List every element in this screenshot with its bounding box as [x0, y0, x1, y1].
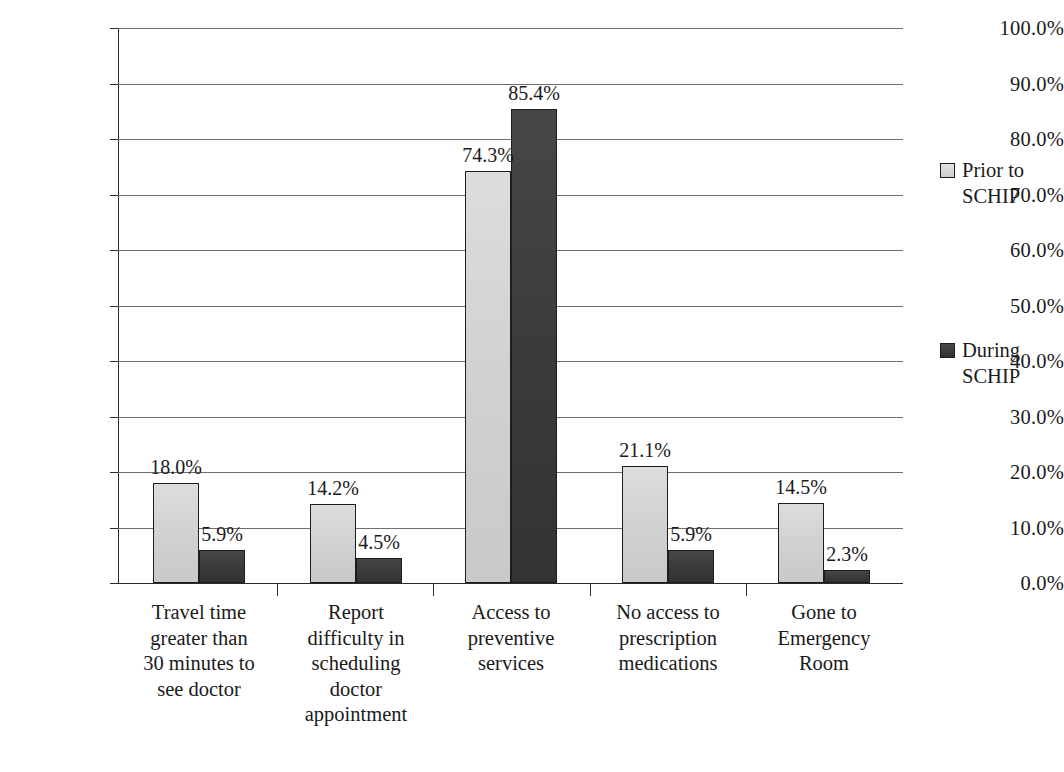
- gridline-100: [118, 28, 903, 29]
- bar-value-label-prior-4: 14.5%: [756, 477, 846, 497]
- bar-value-label-prior-2: 74.3%: [443, 145, 533, 165]
- legend-label-during: During SCHIP: [962, 338, 1020, 389]
- legend-swatch-icon-during: [940, 343, 955, 358]
- bar-value-label-prior-0: 18.0%: [131, 457, 221, 477]
- gridline-0: [118, 583, 903, 584]
- bar-value-label-during-4: 2.3%: [802, 544, 892, 564]
- legend-label-prior: Prior to SCHIP: [962, 158, 1024, 209]
- y-tick-label-60: 60.0%: [960, 240, 1064, 261]
- y-tick-label-10: 10.0%: [960, 518, 1064, 539]
- y-tick-label-30: 30.0%: [960, 407, 1064, 428]
- plot-area: [118, 28, 903, 583]
- category-separator-2: [590, 583, 591, 596]
- legend-swatch-icon-prior: [940, 163, 955, 178]
- category-label-2: Access to preventive services: [431, 600, 591, 677]
- legend-entry-during[interactable]: During SCHIP: [940, 338, 1020, 389]
- category-label-1: Report difficulty in scheduling doctor a…: [276, 600, 436, 728]
- y-tick-label-50: 50.0%: [960, 296, 1064, 317]
- bar-during-3[interactable]: [668, 550, 714, 583]
- bar-during-2[interactable]: [511, 109, 557, 583]
- bar-value-label-during-3: 5.9%: [646, 524, 736, 544]
- bar-value-label-during-2: 85.4%: [489, 83, 579, 103]
- bar-prior-4[interactable]: [778, 503, 824, 583]
- y-tick-label-80: 80.0%: [960, 129, 1064, 150]
- bar-during-0[interactable]: [199, 550, 245, 583]
- bar-prior-2[interactable]: [465, 171, 511, 583]
- bar-value-label-during-0: 5.9%: [177, 524, 267, 544]
- category-separator-1: [433, 583, 434, 596]
- category-label-4: Gone to Emergency Room: [744, 600, 904, 677]
- bar-value-label-prior-3: 21.1%: [600, 440, 690, 460]
- bar-value-label-prior-1: 14.2%: [288, 478, 378, 498]
- bar-during-4[interactable]: [824, 570, 870, 583]
- y-tick-label-90: 90.0%: [960, 74, 1064, 95]
- bar-during-1[interactable]: [356, 558, 402, 583]
- category-separator-0: [277, 583, 278, 596]
- category-separator-3: [746, 583, 747, 596]
- bar-chart: 100.0%90.0%80.0%70.0%60.0%50.0%40.0%30.0…: [0, 0, 1064, 772]
- category-label-3: No access to prescription medications: [588, 600, 748, 677]
- legend-entry-prior[interactable]: Prior to SCHIP: [940, 158, 1024, 209]
- category-label-0: Travel time greater than 30 minutes to s…: [119, 600, 279, 702]
- bar-value-label-during-1: 4.5%: [334, 532, 424, 552]
- y-tick-label-100: 100.0%: [960, 18, 1064, 39]
- y-tick-label-0: 0.0%: [960, 573, 1064, 594]
- y-tick-label-20: 20.0%: [960, 462, 1064, 483]
